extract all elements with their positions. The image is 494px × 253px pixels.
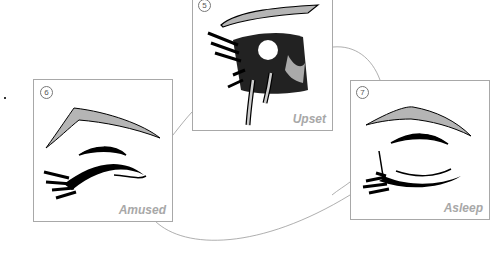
- panel-upset: 5 Upset: [192, 0, 333, 131]
- panel-caption: Upset: [293, 112, 326, 126]
- amused-eye-illustration: [34, 80, 174, 223]
- asleep-eye-illustration: [351, 81, 491, 221]
- panel-amused: 6 Amused: [33, 79, 173, 222]
- panel-caption: Amused: [119, 203, 166, 217]
- panel-caption: Asleep: [444, 201, 483, 215]
- panel-asleep: 7 Asleep: [350, 80, 490, 220]
